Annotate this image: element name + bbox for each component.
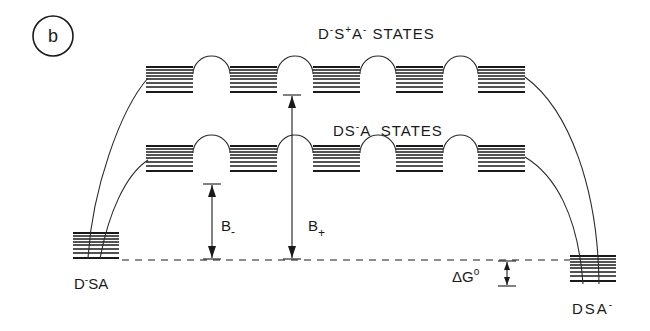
- lower-band-stack-2: [230, 146, 277, 171]
- delta-g-label: ΔGo: [452, 266, 480, 285]
- b-minus-label: B-: [221, 217, 235, 239]
- b-minus-arrow: [203, 184, 221, 259]
- lower-band-stack-3: [313, 146, 360, 171]
- b-plus-label: B+: [308, 217, 325, 240]
- b-plus-arrow: [283, 95, 301, 259]
- upper-states-label: D-S+A- STATES: [318, 24, 435, 42]
- upper-band-stack-4: [396, 67, 443, 92]
- lower-band-stack-1: [146, 146, 193, 171]
- lower-band-stack-5: [478, 146, 525, 171]
- left-state-label: D-SA: [74, 274, 108, 292]
- lower-band-stack-4: [396, 146, 443, 171]
- upper-band-stacks: [146, 67, 525, 92]
- left-outer-curve: [88, 78, 148, 259]
- left-state-stack: [73, 233, 119, 258]
- panel-label: b: [33, 16, 73, 56]
- panel-label-text: b: [48, 26, 58, 46]
- left-band-stack: [73, 233, 119, 258]
- left-inner-curve: [100, 160, 148, 259]
- delta-g-arrow: [498, 261, 516, 286]
- upper-band-stack-5: [478, 67, 525, 92]
- upper-band-stack-2: [230, 67, 277, 92]
- right-outer-curve: [525, 77, 599, 284]
- upper-band-stack-3: [313, 67, 360, 92]
- right-state-label: DSA-: [572, 299, 614, 317]
- upper-coupling-arcs: [193, 56, 478, 74]
- right-band-stack: [570, 256, 616, 281]
- right-state-stack: [570, 256, 616, 281]
- lower-states-label: DS-A STATES: [333, 121, 443, 139]
- upper-band-stack-1: [146, 67, 193, 92]
- lower-band-stacks: [146, 146, 525, 171]
- energy-level-diagram: b D-S+A- STATES DS-A STATES B-: [0, 0, 650, 331]
